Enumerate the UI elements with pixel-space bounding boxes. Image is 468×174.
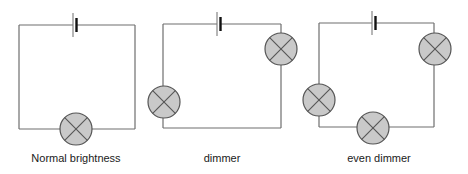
wires <box>163 24 281 128</box>
circuit-2: dimmer <box>148 12 297 164</box>
circuit-1-label: Normal brightness <box>31 152 121 164</box>
lamp-icon <box>60 113 92 145</box>
cell-icon <box>73 13 77 37</box>
lamp-icon <box>419 33 451 65</box>
cell-icon <box>372 11 376 35</box>
lamp-icon <box>265 33 297 65</box>
circuit-1: Normal brightness <box>19 13 135 164</box>
circuit-3-label: even dimmer <box>347 152 411 164</box>
circuit-3: even dimmer <box>303 11 451 164</box>
lamp-icon <box>148 86 180 118</box>
wires <box>319 23 434 127</box>
lamp-icon <box>357 112 389 144</box>
circuit-2-label: dimmer <box>204 152 241 164</box>
lamp-icon <box>303 84 335 116</box>
circuit-diagram: Normal brightness <box>0 0 468 174</box>
cell-icon <box>217 12 221 36</box>
